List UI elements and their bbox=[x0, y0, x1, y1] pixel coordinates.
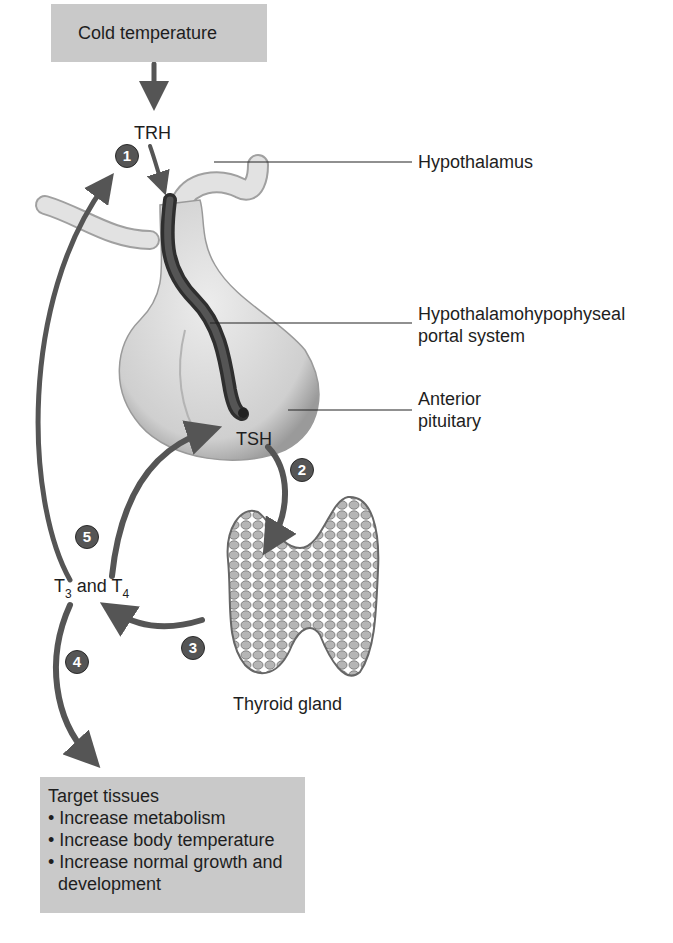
target-tissues-box: Target tissues • Increase metabolism • I… bbox=[40, 777, 305, 913]
cold-temperature-label: Cold temperature bbox=[78, 22, 217, 44]
step-1-badge: 1 bbox=[115, 144, 139, 168]
step-3-badge: 3 bbox=[181, 636, 205, 660]
tsh-label: TSH bbox=[236, 428, 272, 450]
target-bullet-growth: • Increase normal growth and bbox=[48, 851, 282, 873]
step-2-badge: 2 bbox=[290, 458, 314, 482]
target-tissues-title: Target tissues bbox=[48, 785, 159, 807]
anterior-pituitary-label-line1: Anterior bbox=[418, 388, 481, 410]
trh-label: TRH bbox=[134, 122, 171, 144]
target-bullet-metabolism: • Increase metabolism bbox=[48, 807, 225, 829]
thyroid-shape bbox=[228, 497, 379, 676]
target-bullet-body-temperature: • Increase body temperature bbox=[48, 829, 274, 851]
t3-t4-label: T3 and T4 bbox=[54, 575, 129, 599]
thyroid-gland-label: Thyroid gland bbox=[233, 693, 342, 715]
target-bullet-development: development bbox=[48, 873, 161, 895]
step-4-badge: 4 bbox=[65, 650, 89, 674]
cold-temperature-box: Cold temperature bbox=[51, 4, 267, 62]
hypothalamus-label: Hypothalamus bbox=[418, 151, 533, 173]
step-5-badge: 5 bbox=[75, 525, 99, 549]
portal-system-label-line1: Hypothalamohypophyseal bbox=[418, 303, 625, 325]
portal-system-label-line2: portal system bbox=[418, 325, 525, 347]
anterior-pituitary-label-line2: pituitary bbox=[418, 410, 481, 432]
